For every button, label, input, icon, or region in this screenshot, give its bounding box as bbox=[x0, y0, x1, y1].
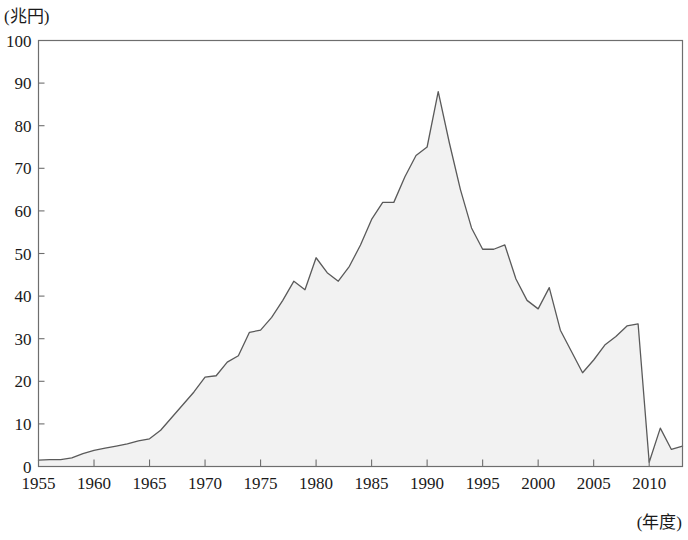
x-tick-label: 1980 bbox=[299, 474, 333, 493]
series-area-fill bbox=[39, 92, 683, 467]
y-tick-label: 30 bbox=[15, 330, 32, 349]
x-axis-tick-labels: 1955196019651970197519801985199019952000… bbox=[22, 474, 667, 493]
y-axis-tick-labels: 0102030405060708090100 bbox=[6, 32, 32, 477]
y-tick-label: 70 bbox=[15, 159, 32, 178]
x-tick-label: 1965 bbox=[133, 474, 167, 493]
y-tick-label: 100 bbox=[6, 32, 32, 51]
y-tick-label: 40 bbox=[15, 287, 32, 306]
x-tick-label: 1985 bbox=[355, 474, 389, 493]
x-tick-label: 1990 bbox=[410, 474, 444, 493]
y-tick-label: 50 bbox=[15, 245, 32, 264]
y-tick-label: 90 bbox=[15, 74, 32, 93]
x-tick-label: 1955 bbox=[22, 474, 56, 493]
chart-container: (兆円) (年度) 0102030405060708090100 1955196… bbox=[0, 0, 688, 540]
y-tick-label: 80 bbox=[15, 117, 32, 136]
y-tick-label: 20 bbox=[15, 372, 32, 391]
area-chart-plot: 0102030405060708090100 19551960196519701… bbox=[0, 0, 688, 540]
x-tick-label: 1970 bbox=[188, 474, 222, 493]
y-tick-label: 60 bbox=[15, 202, 32, 221]
x-tick-label: 2005 bbox=[577, 474, 611, 493]
x-tick-label: 2000 bbox=[521, 474, 555, 493]
series-area-group bbox=[39, 92, 683, 467]
x-tick-label: 1960 bbox=[77, 474, 111, 493]
x-tick-label: 2010 bbox=[632, 474, 666, 493]
x-tick-label: 1995 bbox=[466, 474, 500, 493]
y-tick-label: 10 bbox=[15, 415, 32, 434]
x-tick-label: 1975 bbox=[244, 474, 278, 493]
